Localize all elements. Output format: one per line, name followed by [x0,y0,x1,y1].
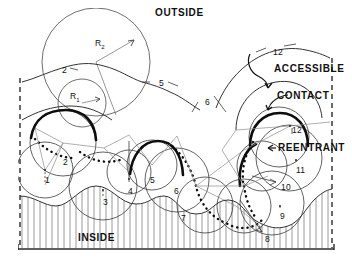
label-leader-lines [45,44,296,232]
outside-label: OUTSIDE [155,8,204,18]
atom-number-n-c10: 10 [281,183,291,192]
atom-number-n-mid-12: 12 [292,126,302,135]
atom-number-n-c8: 8 [265,235,270,244]
radius-R1-subscript: 1 [76,97,79,103]
probe-sphere-circles [42,8,150,127]
accessible-label: ACCESSIBLE [274,64,344,74]
accessible-arc-dome [236,81,322,130]
atom-number-n-top-2: 2 [62,66,67,75]
atom-number-n-top-5: 5 [159,79,164,88]
accessible-callout-arrow [248,54,268,88]
radius-R2-subscript: 2 [101,44,104,50]
atom-number-n-c5: 5 [150,176,155,185]
atom-number-n-c9: 9 [280,212,285,221]
atom-number-n-c4: 4 [128,187,133,196]
accessible-arc-lower-left [22,106,112,120]
atom-number-n-c1: 1 [45,176,50,185]
atom-number-n-c2: 2 [63,158,68,167]
reentrant-label: REENTRANT [278,143,345,153]
atom-number-n-top-6: 6 [205,98,210,107]
atom-number-n-c6: 6 [174,187,179,196]
radius-leaders [82,40,134,115]
atom-number-n-c7: 7 [181,214,186,223]
reentrant-arc-a [35,139,72,158]
contact-arc-2 [31,110,96,140]
atom-number-n-top-12: 12 [273,48,283,57]
atom-circle-12 [249,107,309,167]
radius-R2-label: R2 [95,39,104,50]
vdw-atom-circles [17,107,322,235]
atom-number-n-c3: 3 [103,198,108,207]
contact-label: CONTACT [277,91,329,101]
atom-number-n-c11: 11 [296,166,305,175]
radius-R1-label: R1 [70,92,79,103]
accessible-arc-mid [142,82,200,110]
inside-label: INSIDE [78,233,115,243]
reentrant-arc-g [244,186,256,218]
molecular-surface-figure: OUTSIDE INSIDE ACCESSIBLE CONTACT REENTR… [0,0,352,259]
